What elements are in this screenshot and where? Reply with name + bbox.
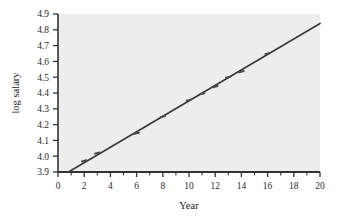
chart-figure: 02468101214161820 3.94.04.14.24.34.44.54… [0, 0, 340, 220]
plot-background [58, 14, 320, 172]
x-axis-tick-label: 6 [134, 181, 139, 191]
data-point [134, 133, 139, 134]
data-point [265, 53, 270, 54]
data-point [187, 100, 192, 101]
data-point [95, 152, 100, 153]
x-axis-tick-label: 10 [184, 181, 194, 191]
y-axis-tick-label: 4.8 [37, 25, 49, 35]
x-axis-tick-label: 20 [315, 181, 325, 191]
y-axis-title: log salary [10, 72, 21, 114]
x-axis-tick-label: 8 [160, 181, 165, 191]
x-axis-tick-label: 16 [263, 181, 273, 191]
x-axis-tick-label: 14 [237, 181, 247, 191]
x-axis-tick-label: 0 [56, 181, 61, 191]
scatter-plot-with-regression-line: 02468101214161820 3.94.04.14.24.34.44.54… [0, 0, 340, 220]
data-point [226, 77, 231, 78]
y-axis-tick-label: 4.6 [37, 57, 49, 67]
x-axis-tick-label: 4 [108, 181, 113, 191]
y-axis-tick-label: 4.1 [37, 136, 49, 146]
data-point [213, 86, 218, 87]
y-axis-tick-label: 4.2 [37, 120, 49, 130]
y-axis-tick-label: 4.4 [37, 88, 49, 98]
data-point [200, 93, 205, 94]
y-axis-tick-label: 4.5 [37, 73, 49, 83]
data-point [161, 116, 166, 117]
data-point [82, 160, 87, 161]
x-axis-tick-label: 18 [289, 181, 299, 191]
y-axis-tick-label: 4.9 [37, 9, 49, 19]
data-point [239, 71, 244, 72]
y-axis-tick-labels: 3.94.04.14.24.34.44.54.64.74.84.9 [37, 9, 49, 177]
y-axis-tick-label: 4.3 [37, 104, 49, 114]
x-axis-tick-labels: 02468101214161820 [56, 181, 325, 191]
x-axis-tick-label: 2 [82, 181, 87, 191]
y-axis-tick-label: 3.9 [37, 167, 49, 177]
x-axis-tick-label: 12 [210, 181, 220, 191]
y-axis-tick-label: 4.7 [37, 41, 49, 51]
y-axis-tick-label: 4.0 [37, 152, 49, 162]
x-axis-title: Year [179, 200, 199, 211]
